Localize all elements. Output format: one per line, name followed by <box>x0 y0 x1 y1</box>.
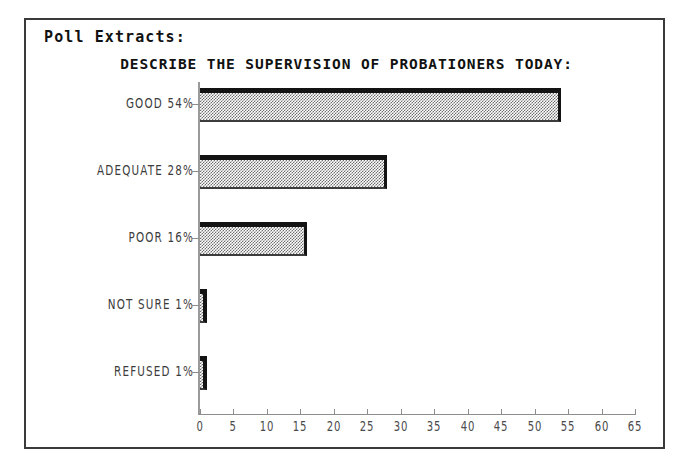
bar-tick <box>192 238 199 239</box>
bar-row: NOT SURE 1% <box>26 283 667 329</box>
bar <box>200 289 207 323</box>
x-axis-tick <box>434 409 435 415</box>
x-axis-tick <box>535 409 536 415</box>
bar-row: ADEQUATE 28% <box>26 149 667 195</box>
x-axis-tick-label: 50 <box>520 418 549 434</box>
x-axis-tick <box>300 409 301 415</box>
x-axis-tick-label: 0 <box>186 418 215 434</box>
x-axis-tick-label: 25 <box>353 418 382 434</box>
x-axis-tick-label: 55 <box>554 418 583 434</box>
x-axis-tick-label: 20 <box>319 418 348 434</box>
x-axis-tick <box>401 409 402 415</box>
x-axis-tick-label: 65 <box>621 418 650 434</box>
cut-off-text-above-frame: - .--- .-- - <box>96 0 255 3</box>
x-axis-tick-label: 10 <box>253 418 282 434</box>
bar-row: REFUSED 1% <box>26 350 667 396</box>
x-axis-tick <box>267 409 268 415</box>
bar-row: GOOD 54% <box>26 82 667 128</box>
bar <box>200 155 387 189</box>
x-axis-tick <box>602 409 603 415</box>
bar-label: GOOD 54% <box>70 95 194 111</box>
bar-label: ADEQUATE 28% <box>70 162 194 178</box>
bar-label: REFUSED 1% <box>70 363 194 379</box>
bar-chart: GOOD 54%ADEQUATE 28%POOR 16%NOT SURE 1%R… <box>26 20 667 451</box>
x-axis-tick <box>568 409 569 415</box>
x-axis-tick-label: 40 <box>453 418 482 434</box>
x-axis-tick <box>468 409 469 415</box>
x-axis-tick-label: 30 <box>386 418 415 434</box>
x-axis-tick <box>200 409 201 415</box>
poll-extract-frame: Poll Extracts: DESCRIBE THE SUPERVISION … <box>24 18 665 449</box>
bar <box>200 222 307 256</box>
bar-tick <box>192 305 199 306</box>
bar-tick <box>192 171 199 172</box>
x-axis-line <box>198 414 635 415</box>
bar-tick <box>192 104 199 105</box>
x-axis-tick <box>635 409 636 415</box>
x-axis-tick <box>233 409 234 415</box>
bar-row: POOR 16% <box>26 216 667 262</box>
x-axis-tick <box>367 409 368 415</box>
x-axis-tick-label: 35 <box>420 418 449 434</box>
x-axis-tick-label: 45 <box>487 418 516 434</box>
page-top-bleed: - .--- .-- - <box>0 0 685 10</box>
x-axis-tick-label: 15 <box>286 418 315 434</box>
bar-tick <box>192 372 199 373</box>
bar-label: NOT SURE 1% <box>70 296 194 312</box>
x-axis-tick <box>501 409 502 415</box>
bar <box>200 356 207 390</box>
bar <box>200 88 561 122</box>
x-axis-tick-label: 5 <box>219 418 248 434</box>
x-axis-tick-label: 60 <box>587 418 616 434</box>
bar-label: POOR 16% <box>70 229 194 245</box>
x-axis-tick <box>334 409 335 415</box>
